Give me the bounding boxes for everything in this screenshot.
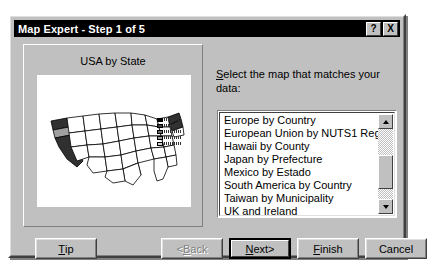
legend-label-line xyxy=(164,142,181,145)
list-item[interactable]: Hawaii by County xyxy=(221,140,379,153)
finish-button-label: Finish xyxy=(298,239,358,258)
map-list-box[interactable]: Europe by CountryEuropean Union by NUTS1… xyxy=(217,110,397,218)
back-button-label: < Back xyxy=(162,239,222,258)
finish-rest: inish xyxy=(320,243,343,255)
help-icon-glyph: ? xyxy=(370,24,376,34)
cancel-rest: Cancel xyxy=(379,243,413,255)
tip-accel: T xyxy=(58,243,65,255)
back-accel: B xyxy=(183,243,190,255)
list-item[interactable]: South America by Country xyxy=(221,179,379,192)
window-title: Map Expert - Step 1 of 5 xyxy=(14,23,366,35)
next-suffix: > xyxy=(268,243,274,255)
list-item[interactable]: UK and Ireland xyxy=(221,205,379,216)
arrow-up-icon xyxy=(383,120,389,124)
arrow-down-icon xyxy=(383,205,389,209)
map-legend xyxy=(157,117,181,145)
legend-swatch xyxy=(157,124,163,128)
list-item[interactable]: European Union by NUTS1 Region xyxy=(221,127,379,140)
legend-item xyxy=(157,123,181,128)
map-list-items: Europe by CountryEuropean Union by NUTS1… xyxy=(221,114,379,216)
scrollbar-thumb[interactable] xyxy=(378,155,393,189)
list-scrollbar[interactable] xyxy=(378,114,393,214)
back-button[interactable]: < Back xyxy=(161,238,223,259)
close-icon[interactable]: X xyxy=(383,22,398,36)
preview-title: USA by State xyxy=(24,55,202,67)
map-expert-dialog: Map Expert - Step 1 of 5 ? X USA by Stat… xyxy=(8,14,406,258)
back-rest: ack xyxy=(190,243,207,255)
scroll-up-icon[interactable] xyxy=(378,114,393,129)
scroll-down-icon[interactable] xyxy=(378,199,393,214)
close-icon-glyph: X xyxy=(387,24,394,34)
instruction-label: Select the map that matches your data: xyxy=(216,67,406,95)
legend-label-line xyxy=(164,130,181,133)
finish-accel: F xyxy=(313,243,320,255)
list-item[interactable]: Japan by Prefecture xyxy=(221,153,379,166)
cancel-button[interactable]: Cancel xyxy=(365,238,427,259)
next-rest: ext xyxy=(253,243,268,255)
map-list-box-inner: Europe by CountryEuropean Union by NUTS1… xyxy=(219,112,395,216)
legend-swatch xyxy=(157,142,163,146)
tip-button-label: Tip xyxy=(36,239,96,258)
tip-button[interactable]: Tip xyxy=(35,238,97,259)
instruction-text: elect the map that matches your data: xyxy=(216,68,380,94)
legend-label-line xyxy=(164,136,181,139)
legend-swatch xyxy=(157,118,163,122)
finish-button[interactable]: Finish xyxy=(297,238,359,259)
next-button-label: Next > xyxy=(231,240,289,257)
list-item[interactable]: Taiwan by Municipality xyxy=(221,192,379,205)
map-preview-group: USA by State xyxy=(23,44,203,227)
list-item[interactable]: Mexico by Estado xyxy=(221,166,379,179)
list-item[interactable]: Europe by Country xyxy=(221,114,379,127)
legend-label-line xyxy=(164,124,181,127)
next-accel: N xyxy=(245,243,253,255)
legend-label-line xyxy=(164,118,181,121)
map-preview-canvas xyxy=(37,75,191,207)
legend-swatch xyxy=(157,136,163,140)
dialog-inner-frame: Map Expert - Step 1 of 5 ? X USA by Stat… xyxy=(10,16,404,256)
help-icon[interactable]: ? xyxy=(366,22,381,36)
next-button[interactable]: Next > xyxy=(229,238,291,259)
legend-item xyxy=(157,141,181,146)
title-bar[interactable]: Map Expert - Step 1 of 5 ? X xyxy=(14,20,400,37)
cancel-button-label: Cancel xyxy=(366,239,426,258)
legend-item xyxy=(157,135,181,140)
tip-rest: ip xyxy=(65,243,74,255)
legend-item xyxy=(157,129,181,134)
legend-item xyxy=(157,117,181,122)
legend-swatch xyxy=(157,130,163,134)
